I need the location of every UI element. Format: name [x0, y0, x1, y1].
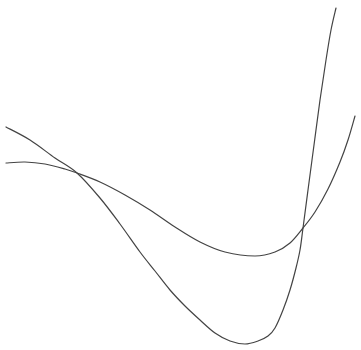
plot-background: [0, 0, 361, 350]
function-plot: [0, 0, 361, 350]
